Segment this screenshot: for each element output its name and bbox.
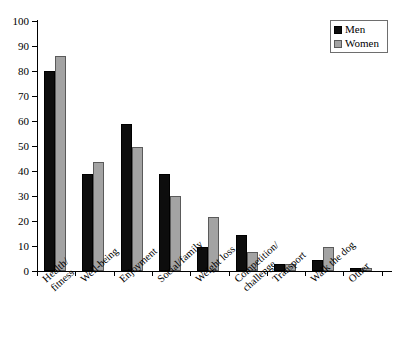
legend-item-women: Women [334,38,379,49]
y-tick [32,146,37,147]
y-tick [32,46,37,47]
legend-swatch-men-icon [334,26,342,34]
y-tick [32,96,37,97]
y-tick [32,221,37,222]
y-tick [32,171,37,172]
x-tick [229,271,230,276]
legend-label-men: Men [345,24,365,35]
bar-men-3 [159,174,170,272]
x-tick [152,271,153,276]
y-tick-label: 80 [3,66,29,77]
y-tick-label: 0 [3,266,29,277]
legend-label-women: Women [345,38,379,49]
y-tick [32,121,37,122]
y-axis-line [37,20,38,272]
x-tick [343,271,344,276]
bar-chart: 0102030405060708090100 Health/fitnessWel… [0,0,405,344]
y-tick-label: 10 [3,241,29,252]
y-tick-label: 40 [3,166,29,177]
bar-men-0 [44,71,55,271]
y-tick [32,196,37,197]
y-tick-label: 20 [3,216,29,227]
x-tick [37,271,38,276]
y-tick-label: 30 [3,191,29,202]
y-tick [32,71,37,72]
y-tick [32,21,37,22]
bar-men-2 [121,124,132,272]
legend-item-men: Men [334,24,365,35]
x-axis-label: Other [347,261,372,285]
x-tick [305,271,306,276]
y-tick-label: 70 [3,91,29,102]
bar-men-1 [82,174,93,272]
x-tick [114,271,115,276]
bar-women-2 [132,147,143,271]
y-tick-label: 60 [3,116,29,127]
x-tick [190,271,191,276]
y-tick [32,246,37,247]
x-tick [382,271,383,276]
bar-women-0 [55,56,66,271]
y-tick-label: 100 [3,16,29,27]
y-tick-label: 50 [3,141,29,152]
y-tick-label: 90 [3,41,29,52]
legend-swatch-women-icon [334,40,342,48]
legend: Men Women [330,20,388,53]
